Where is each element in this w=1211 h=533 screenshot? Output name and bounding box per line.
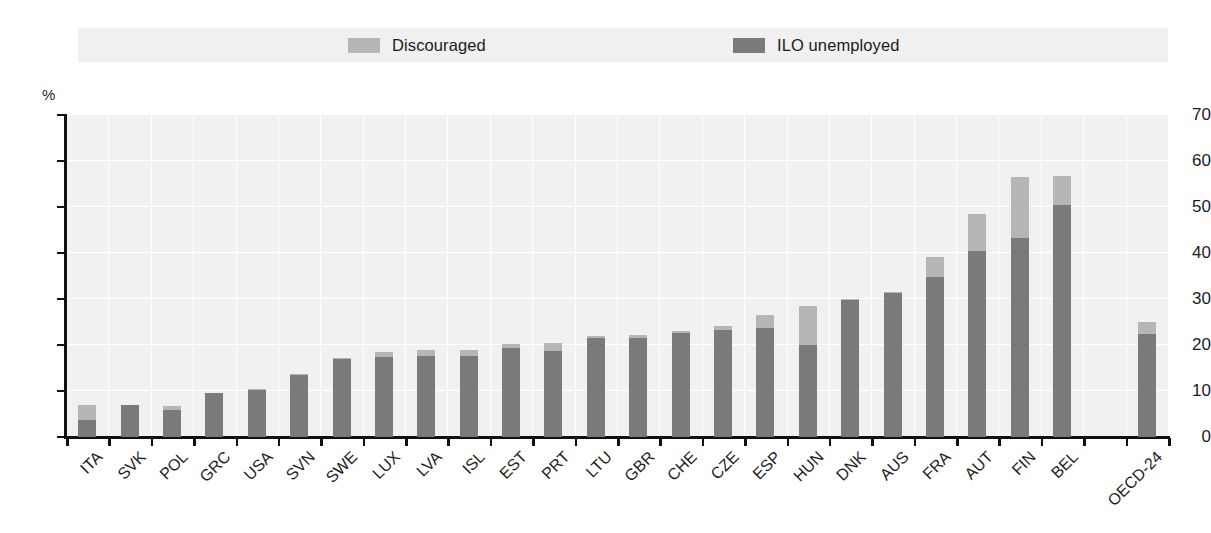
y-axis-tick-label: 40 xyxy=(1165,243,1211,263)
x-axis-tick xyxy=(617,438,620,446)
bar-segment-ilo-unemployed xyxy=(248,390,266,437)
x-axis-tick xyxy=(998,438,1001,446)
x-axis-tick-label: DNK xyxy=(833,448,870,485)
bar-segment-ilo-unemployed xyxy=(587,338,605,437)
x-axis-tick-label: ESP xyxy=(750,448,785,483)
bar xyxy=(460,115,478,437)
bar xyxy=(672,115,690,437)
bar xyxy=(884,115,902,437)
bar xyxy=(756,115,774,437)
gridline-vertical xyxy=(702,115,703,437)
y-axis-tick-label: 30 xyxy=(1165,289,1211,309)
bar xyxy=(205,115,223,437)
bar-segment-discouraged xyxy=(756,315,774,328)
bar-segment-discouraged xyxy=(714,326,732,330)
legend-swatch-discouraged xyxy=(348,38,380,53)
gridline-vertical xyxy=(151,115,152,437)
bar-segment-ilo-unemployed xyxy=(884,293,902,437)
y-axis-tick-label: 50 xyxy=(1165,197,1211,217)
bar xyxy=(629,115,647,437)
y-axis-tick-label: 20 xyxy=(1165,335,1211,355)
gridline-vertical xyxy=(659,115,660,437)
bar-segment-discouraged xyxy=(841,299,859,300)
gridline-vertical xyxy=(1041,115,1042,437)
legend-entry-ilo-unemployed: ILO unemployed xyxy=(733,28,899,62)
bar xyxy=(1053,115,1071,437)
x-axis-tick xyxy=(66,438,69,446)
bar xyxy=(121,115,139,437)
y-axis-tick xyxy=(57,252,66,255)
x-axis-tick-label: USA xyxy=(240,448,276,484)
bar-segment-discouraged xyxy=(417,350,435,356)
bar-segment-ilo-unemployed xyxy=(968,251,986,437)
gridline-vertical xyxy=(617,115,618,437)
bar xyxy=(375,115,393,437)
x-axis-tick-label: PRT xyxy=(538,448,573,483)
x-axis-tick-label: CZE xyxy=(707,448,742,483)
gridline-vertical xyxy=(278,115,279,437)
gridline-vertical xyxy=(363,115,364,437)
bar-segment-discouraged xyxy=(1138,322,1156,334)
x-axis-tick-label: BEL xyxy=(1048,448,1082,482)
bar xyxy=(841,115,859,437)
bar xyxy=(333,115,351,437)
x-axis-tick xyxy=(1083,438,1086,446)
bar-segment-ilo-unemployed xyxy=(460,356,478,437)
bar-segment-discouraged xyxy=(1011,177,1029,238)
x-axis-tick-label: LVA xyxy=(414,448,446,480)
bar xyxy=(968,115,986,437)
x-axis-tick-label: CHE xyxy=(664,448,701,485)
bar xyxy=(1011,115,1029,437)
bar xyxy=(714,115,732,437)
gridline-vertical xyxy=(1083,115,1084,437)
x-axis-tick-label: SVK xyxy=(114,448,149,483)
x-axis-tick-label: AUS xyxy=(876,448,912,484)
x-axis-tick xyxy=(659,438,662,446)
bar-segment-discouraged xyxy=(884,292,902,293)
legend-swatch-ilo-unemployed xyxy=(733,38,765,53)
x-axis-tick-label: OECD-24 xyxy=(1105,448,1167,510)
bar-segment-ilo-unemployed xyxy=(841,300,859,437)
bar-segment-discouraged xyxy=(799,306,817,345)
bar-segment-discouraged xyxy=(502,344,520,348)
bar-segment-ilo-unemployed xyxy=(121,405,139,437)
bar-segment-discouraged xyxy=(248,389,266,390)
gridline-vertical xyxy=(829,115,830,437)
x-axis-tick xyxy=(405,438,408,446)
x-axis-tick-label: POL xyxy=(156,448,191,483)
gridline-vertical xyxy=(871,115,872,437)
gridline-vertical xyxy=(744,115,745,437)
bar-segment-ilo-unemployed xyxy=(1138,334,1156,437)
x-axis-tick xyxy=(829,438,832,446)
bar-segment-ilo-unemployed xyxy=(714,330,732,437)
bar-segment-ilo-unemployed xyxy=(417,356,435,437)
gridline-vertical xyxy=(532,115,533,437)
y-axis-tick xyxy=(57,114,66,117)
x-axis-tick-label: FIN xyxy=(1008,448,1039,479)
bar-segment-ilo-unemployed xyxy=(756,328,774,437)
bar-segment-ilo-unemployed xyxy=(799,345,817,437)
bar xyxy=(78,115,96,437)
gridline-vertical xyxy=(914,115,915,437)
bar-segment-discouraged xyxy=(290,374,308,376)
x-axis-tick xyxy=(702,438,705,446)
bar-chart-figure: Discouraged ILO unemployed % 01020304050… xyxy=(0,0,1211,533)
bar-segment-ilo-unemployed xyxy=(163,410,181,437)
bar xyxy=(248,115,266,437)
x-axis-tick-label: AUT xyxy=(962,448,997,483)
gridline-vertical xyxy=(787,115,788,437)
x-axis-tick xyxy=(363,438,366,446)
bar-segment-discouraged xyxy=(544,343,562,351)
legend-entry-discouraged: Discouraged xyxy=(348,28,486,62)
bar-segment-discouraged xyxy=(587,336,605,337)
y-axis-tick xyxy=(57,160,66,163)
y-axis-tick-label: 60 xyxy=(1165,151,1211,171)
x-axis-tick-label: FRA xyxy=(919,448,954,483)
gridline-vertical xyxy=(1126,115,1127,437)
y-axis-tick xyxy=(57,206,66,209)
y-axis-tick xyxy=(57,344,66,347)
bar-segment-ilo-unemployed xyxy=(502,348,520,437)
bar-segment-ilo-unemployed xyxy=(544,351,562,437)
gridline-vertical xyxy=(236,115,237,437)
x-axis-tick-label: GBR xyxy=(621,448,658,485)
